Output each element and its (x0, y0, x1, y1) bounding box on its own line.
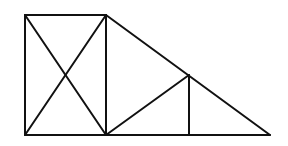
segment-diag-de (106, 75, 189, 135)
geometry-diagram (0, 0, 288, 146)
